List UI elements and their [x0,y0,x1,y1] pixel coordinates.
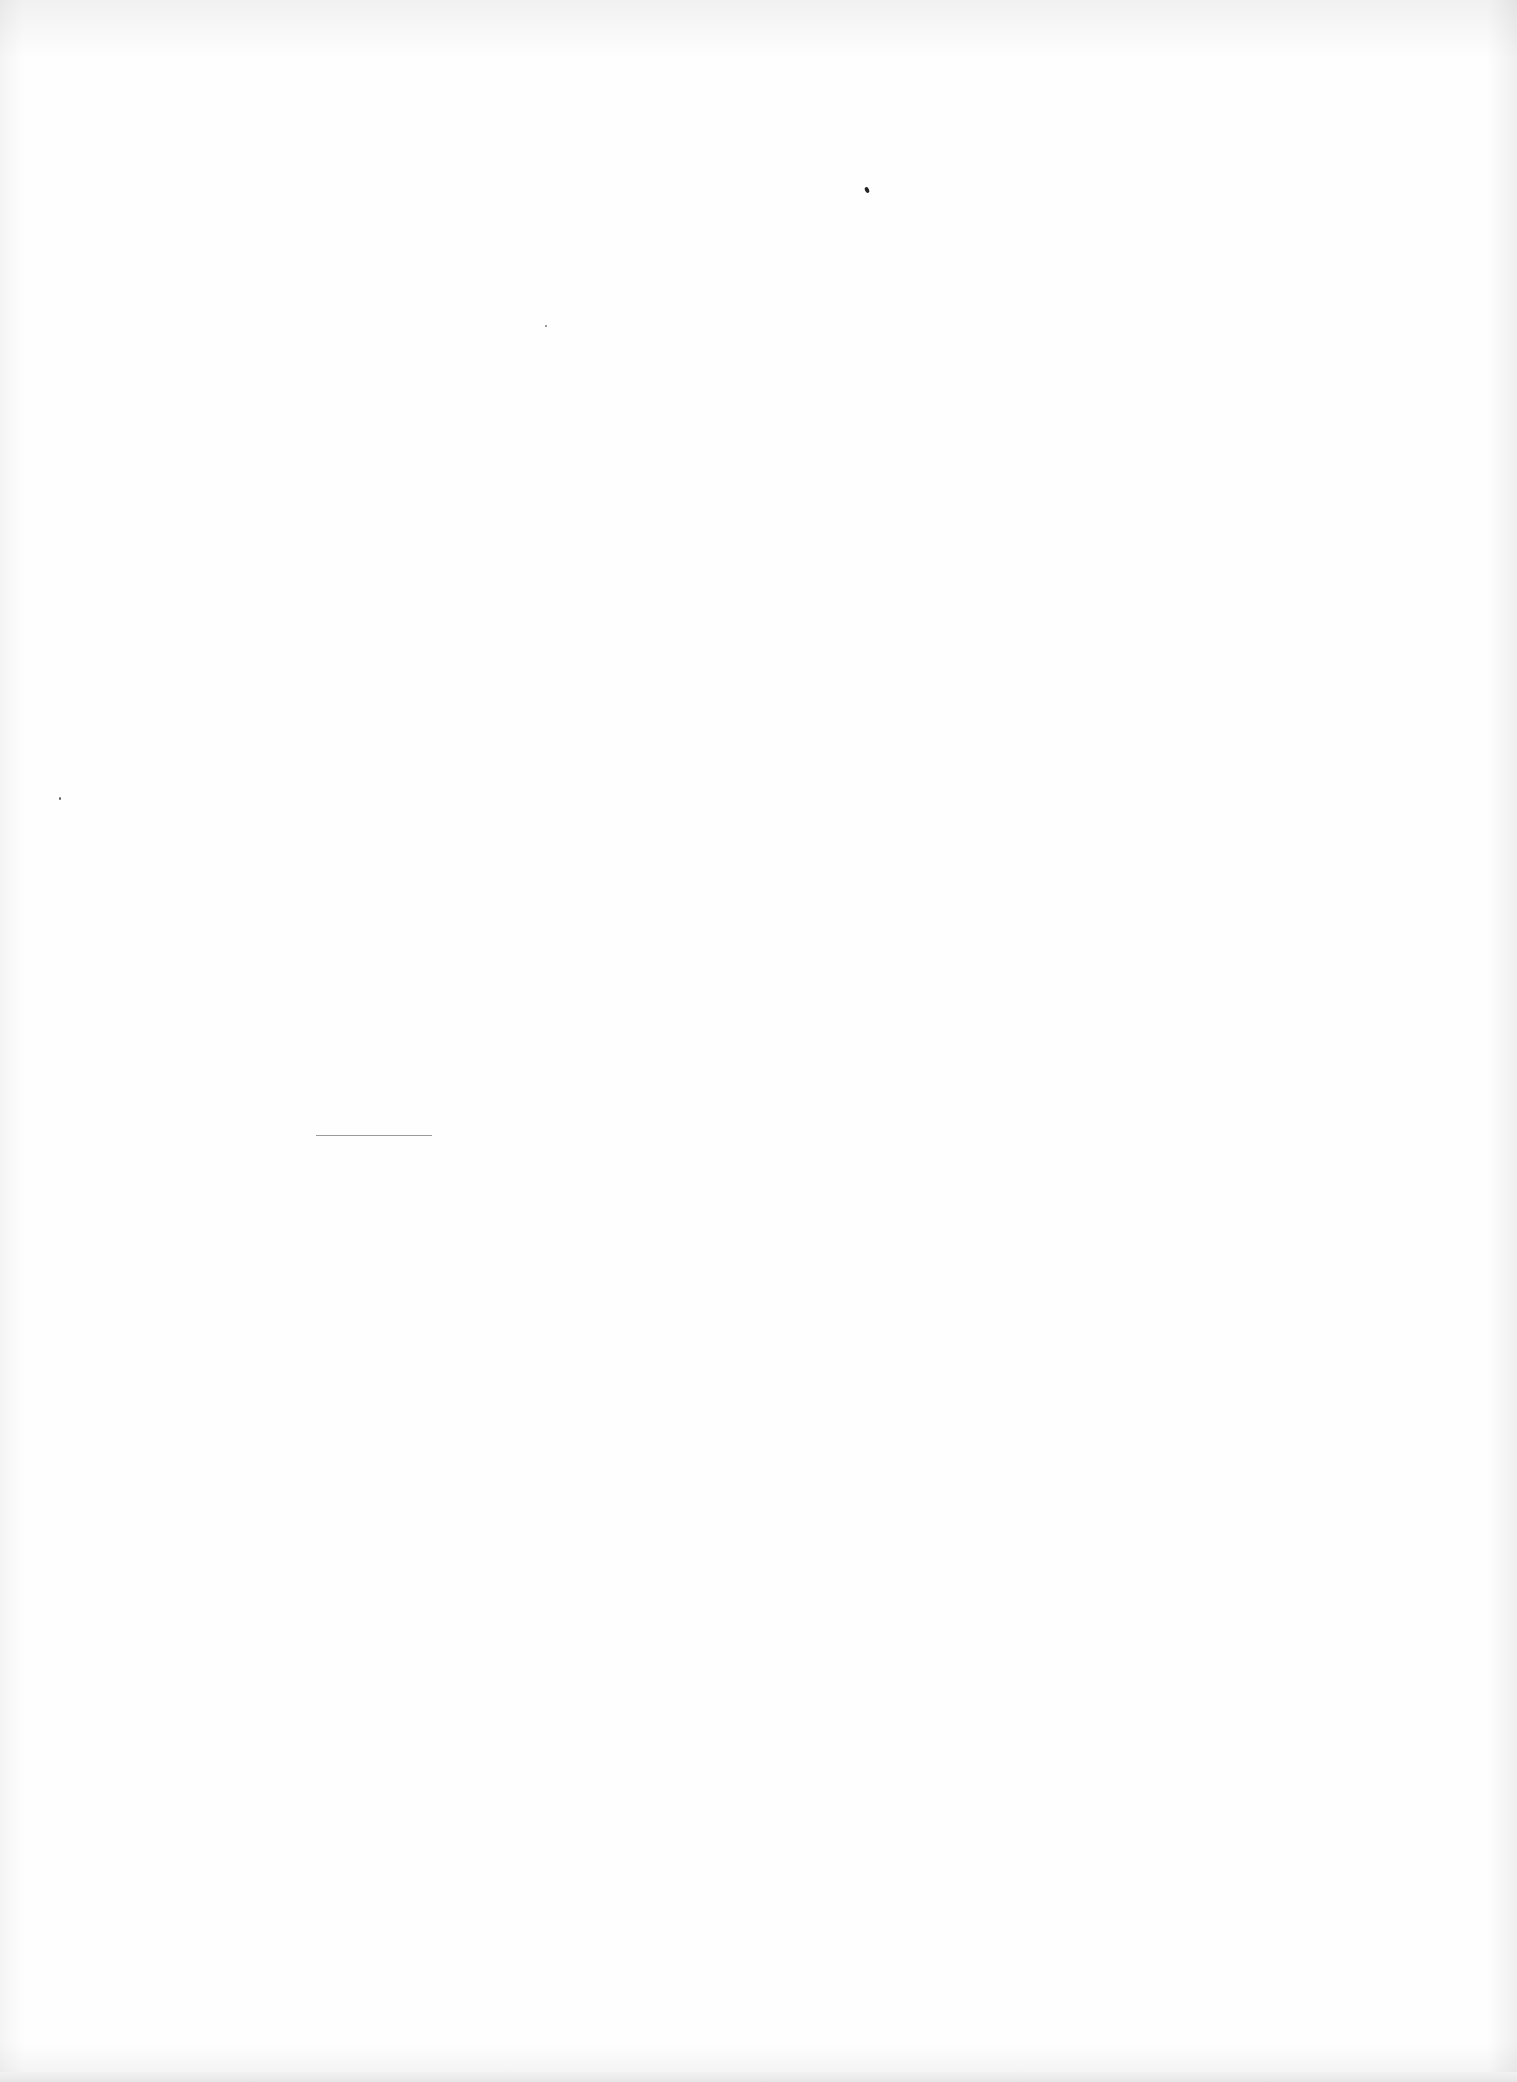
ink-speck [59,797,61,800]
scan-edge [0,2072,1517,2082]
faint-horizontal-line [316,1135,432,1136]
blank-page [0,0,1517,2082]
ink-speck [545,325,547,327]
ink-speck [864,186,870,193]
